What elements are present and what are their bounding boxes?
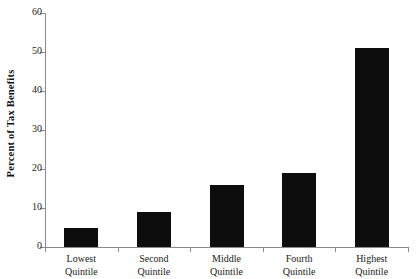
x-tick-mark bbox=[45, 247, 46, 252]
y-tick-label: 30 bbox=[32, 123, 42, 134]
y-axis-line bbox=[45, 13, 46, 247]
x-axis-label-line1: Highest bbox=[335, 253, 408, 266]
x-axis-label-line1: Middle bbox=[190, 253, 263, 266]
x-axis-label-line2: Quintile bbox=[118, 266, 191, 279]
x-axis-label: MiddleQuintile bbox=[190, 253, 263, 278]
y-tick-label: 0 bbox=[37, 240, 42, 251]
x-tick-mark bbox=[335, 247, 336, 252]
y-tick-label: 10 bbox=[32, 201, 42, 212]
x-tick-mark bbox=[263, 247, 264, 252]
y-axis-title: Percent of Tax Benefits bbox=[0, 0, 22, 247]
x-axis-label: FourthQuintile bbox=[263, 253, 336, 278]
x-axis-label: HighestQuintile bbox=[335, 253, 408, 278]
bar bbox=[355, 48, 389, 247]
x-axis-line bbox=[45, 247, 408, 248]
plot-area: 0102030405060 LowestQuintileSecondQuinti… bbox=[45, 13, 408, 247]
x-axis-label-line2: Quintile bbox=[263, 266, 336, 279]
x-tick-mark bbox=[408, 247, 409, 252]
y-axis-title-text: Percent of Tax Benefits bbox=[6, 70, 17, 178]
bar bbox=[210, 185, 244, 247]
y-tick-label: 20 bbox=[32, 162, 42, 173]
x-tick-mark bbox=[190, 247, 191, 252]
x-axis-label-line2: Quintile bbox=[190, 266, 263, 279]
x-axis-label: LowestQuintile bbox=[45, 253, 118, 278]
y-tick-label: 50 bbox=[32, 45, 42, 56]
x-axis-label-line2: Quintile bbox=[45, 266, 118, 279]
bar bbox=[64, 228, 98, 248]
x-axis-label-line2: Quintile bbox=[335, 266, 408, 279]
x-axis-label-line1: Second bbox=[118, 253, 191, 266]
y-tick-label: 40 bbox=[32, 84, 42, 95]
bar bbox=[137, 212, 171, 247]
x-axis-label: SecondQuintile bbox=[118, 253, 191, 278]
y-tick-label: 60 bbox=[32, 6, 42, 17]
x-tick-mark bbox=[118, 247, 119, 252]
bar-chart: Percent of Tax Benefits 0102030405060 Lo… bbox=[0, 0, 416, 279]
x-axis-label-line1: Fourth bbox=[263, 253, 336, 266]
bar bbox=[282, 173, 316, 247]
x-axis-label-line1: Lowest bbox=[45, 253, 118, 266]
